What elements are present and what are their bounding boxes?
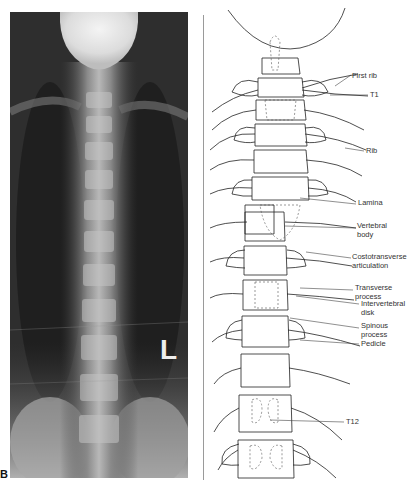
- panel-letter: B: [0, 468, 8, 480]
- label-lamina: Lamina: [358, 199, 383, 208]
- label-pedicle: Pedicle: [361, 340, 386, 349]
- label-intervertebral-disk: Intervertebral disk: [361, 300, 405, 317]
- label-vertebral-body: Vertebral body: [357, 222, 387, 239]
- label-rib: Rib: [366, 147, 377, 156]
- label-t12: T12: [346, 418, 359, 427]
- label-t1: T1: [370, 91, 379, 100]
- label-first-rib: First rib: [352, 72, 377, 81]
- xray-side-marker: L: [160, 336, 177, 364]
- xray-image: [10, 12, 188, 478]
- spine-diagram: [204, 0, 410, 485]
- label-spinous-process: Spinous process: [361, 322, 388, 339]
- label-costotransverse-articulation: Costotransverse articulation: [352, 253, 407, 270]
